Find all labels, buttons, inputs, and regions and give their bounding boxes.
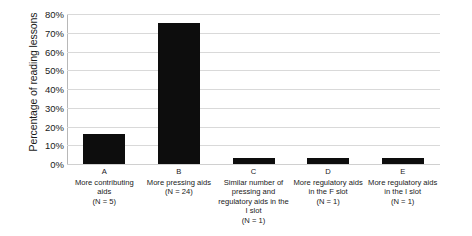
x-label-count: (N = 1) bbox=[291, 197, 366, 207]
bar-c bbox=[233, 158, 275, 164]
axis-baseline bbox=[67, 164, 440, 165]
y-tick-label: 20% bbox=[45, 121, 64, 132]
bar-a bbox=[83, 134, 125, 164]
y-tick-label: 70% bbox=[45, 27, 64, 38]
x-axis-category-labels: AMore contributing aids(N = 5)BMore pres… bbox=[67, 167, 440, 236]
x-axis-label-e: EMore regulatory aids in the I slot(N = … bbox=[365, 167, 440, 206]
x-axis-label-b: BMore pressing aids(N = 24) bbox=[142, 167, 217, 197]
x-label-description: More regulatory aids in the I slot bbox=[365, 178, 440, 197]
x-axis-label-a: AMore contributing aids(N = 5) bbox=[67, 167, 142, 206]
y-axis-tick-labels: 80%70%60%50%40%30%20%10%0% bbox=[38, 14, 64, 164]
bar-chart: Percentage of reading lessons 80%70%60%5… bbox=[0, 0, 472, 236]
x-label-letter: E bbox=[365, 167, 440, 177]
x-label-description: More contributing aids bbox=[67, 178, 142, 197]
bar-d bbox=[307, 158, 349, 164]
y-tick-label: 50% bbox=[45, 65, 64, 76]
x-label-description: More pressing aids bbox=[142, 178, 217, 188]
x-label-count: (N = 1) bbox=[216, 216, 291, 226]
x-label-description: More regulatory aids in the F slot bbox=[291, 178, 366, 197]
y-tick-label: 60% bbox=[45, 46, 64, 57]
x-label-letter: C bbox=[216, 167, 291, 177]
x-axis-label-d: DMore regulatory aids in the F slot(N = … bbox=[291, 167, 366, 206]
x-label-description: Similar number of pressing and regulator… bbox=[216, 178, 291, 216]
y-tick-label: 0% bbox=[50, 159, 64, 170]
x-label-letter: A bbox=[67, 167, 142, 177]
x-axis-label-c: CSimilar number of pressing and regulato… bbox=[216, 167, 291, 226]
y-tick-label: 80% bbox=[45, 9, 64, 20]
y-tick-label: 40% bbox=[45, 84, 64, 95]
bar-b bbox=[158, 23, 200, 164]
x-label-count: (N = 1) bbox=[365, 197, 440, 207]
x-label-count: (N = 24) bbox=[142, 187, 217, 197]
bar-e bbox=[382, 158, 424, 164]
x-label-count: (N = 5) bbox=[67, 197, 142, 207]
y-tick-label: 10% bbox=[45, 140, 64, 151]
plot-area bbox=[67, 14, 440, 164]
bars bbox=[67, 14, 440, 164]
x-label-letter: B bbox=[142, 167, 217, 177]
x-label-letter: D bbox=[291, 167, 366, 177]
y-tick-label: 30% bbox=[45, 102, 64, 113]
